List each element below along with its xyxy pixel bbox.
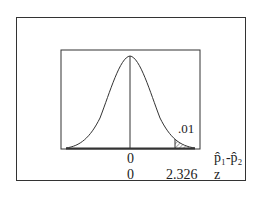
tail-area-label: .01 (178, 122, 194, 136)
phat-axis-label: p̂₁-p̂₂ (214, 151, 242, 165)
z-critical-label: 2.326 (166, 168, 198, 182)
z-zero-label: 0 (127, 168, 134, 182)
z-axis-label: z (214, 168, 220, 182)
phat-zero-label: 0 (127, 152, 134, 166)
